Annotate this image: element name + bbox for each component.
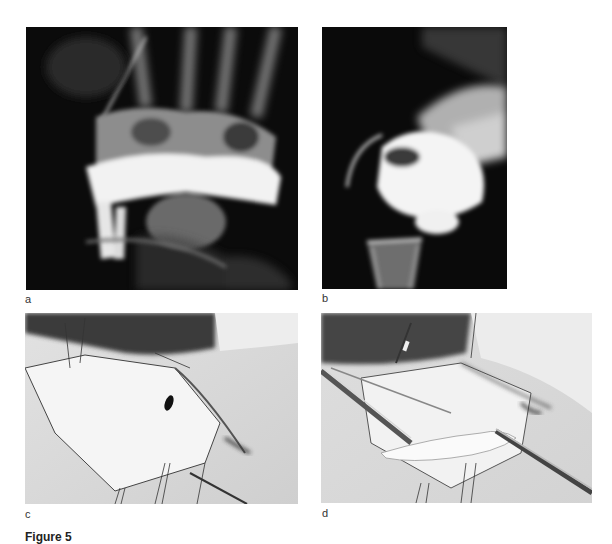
panel-b-xray-lateral (322, 27, 507, 289)
figure-caption: Figure 5 (25, 530, 72, 544)
surgical-photo-c (25, 313, 298, 504)
panel-d-label: d (322, 507, 328, 519)
panel-a-label: a (25, 293, 31, 305)
surgical-photo-d (321, 313, 592, 503)
panel-b-label: b (322, 292, 328, 304)
panel-a-xray-pa (26, 27, 298, 290)
panel-c-label: c (25, 508, 31, 520)
panel-c-surgical-photo (25, 313, 298, 504)
xray-lateral-image (322, 27, 507, 289)
xray-pa-image (26, 27, 298, 290)
panel-d-surgical-photo (321, 313, 592, 503)
